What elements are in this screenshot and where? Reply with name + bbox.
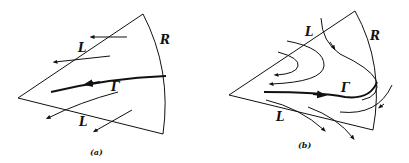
figure: L R Γ L (a) L R Γ L (b) bbox=[0, 0, 409, 163]
panel-a: L R Γ L (a) bbox=[18, 14, 170, 157]
label-gamma-b: Γ bbox=[340, 81, 351, 95]
label-L-bottom-b: L bbox=[275, 110, 284, 124]
gamma-arrow-a bbox=[88, 82, 100, 84]
flow-line-a2 bbox=[55, 56, 110, 62]
label-L-bottom-a: L bbox=[78, 115, 87, 129]
caption-a: (a) bbox=[90, 147, 103, 157]
label-gamma-a: Γ bbox=[110, 80, 121, 94]
panel-b: L R Γ L (b) bbox=[229, 11, 392, 150]
boundary-L-bottom-a bbox=[18, 98, 163, 134]
boundary-R-a bbox=[143, 14, 165, 134]
flow-outer-arc-arrow-b bbox=[380, 104, 384, 107]
flow-line-a4 bbox=[95, 110, 132, 131]
flow-line-b1 bbox=[266, 100, 324, 130]
gamma-curve-a bbox=[51, 76, 166, 92]
gamma-arrow-b bbox=[313, 94, 322, 95]
label-R-a: R bbox=[159, 33, 170, 47]
caption-b: (b) bbox=[298, 140, 311, 150]
label-L-top-a: L bbox=[77, 41, 86, 55]
flow-hairpin-small-b bbox=[276, 52, 298, 75]
label-L-top-b: L bbox=[304, 25, 313, 39]
label-R-b: R bbox=[369, 29, 380, 43]
